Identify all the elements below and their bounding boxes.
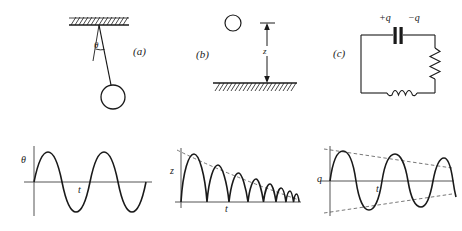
panel-label-b: (b) <box>196 48 209 60</box>
pendulum-drawing <box>55 5 165 115</box>
panel-lcr-circuit: +q −q <box>355 15 455 110</box>
capacitor <box>394 27 403 44</box>
panel-bouncing-ball: z <box>205 5 310 110</box>
graph-lcr: q t <box>310 140 458 225</box>
ball-graph-envelope <box>177 150 299 200</box>
bouncing-ball-drawing <box>205 5 310 110</box>
pendulum-graph-xlabel: t <box>78 184 81 195</box>
panel-pendulum: θ <box>55 5 165 115</box>
graph-bouncing-ball: z t <box>165 140 305 225</box>
lcr-graph-svg <box>310 140 458 225</box>
panel-label-a: (a) <box>133 45 146 57</box>
ball-graph-xlabel: t <box>225 203 228 214</box>
panel-label-c: (c) <box>333 47 345 59</box>
bouncing-ball-graph-svg <box>165 140 305 225</box>
graph-pendulum: θ t <box>12 140 157 225</box>
lcr-graph-lower-envelope <box>324 194 452 213</box>
physics-oscillation-figure: θ (a) <box>0 0 462 231</box>
pendulum-graph-svg <box>12 140 157 225</box>
capacitor-negative-charge-label: −q <box>408 12 420 23</box>
pendulum-angle-label: θ <box>94 40 98 50</box>
ceiling-hatching <box>69 17 129 25</box>
pendulum-graph-ylabel: θ <box>21 154 26 165</box>
ball <box>225 15 241 31</box>
lcr-circuit-drawing <box>355 15 455 110</box>
ball-graph-ylabel: z <box>170 165 174 176</box>
ground-hatching <box>215 83 296 91</box>
resistor <box>430 48 440 79</box>
lcr-graph-xlabel: t <box>376 183 379 194</box>
lcr-graph-ylabel: q <box>317 173 322 184</box>
pendulum-bob <box>101 85 125 109</box>
capacitor-positive-charge-label: +q <box>379 12 391 23</box>
pendulum-rod <box>99 25 111 85</box>
inductor <box>387 91 417 96</box>
ball-height-label: z <box>262 46 268 56</box>
